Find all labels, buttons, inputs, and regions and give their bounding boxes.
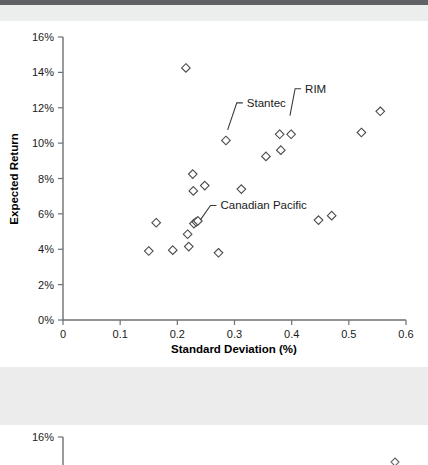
y-axis-title: Expected Return [8, 133, 20, 224]
data-point-marker [182, 64, 191, 73]
annotation-label: Stantec [247, 97, 286, 109]
scatter-chart-expected-return: 0%2%4%6%8%10%12%14%16% 00.10.20.30.40.50… [0, 21, 428, 367]
y-tick-label: 14% [32, 66, 54, 78]
secondary-y-tick-label: 16% [32, 431, 54, 443]
x-tick-label: 0 [60, 328, 66, 340]
data-point-marker [214, 248, 223, 257]
secondary-data-point-marker [391, 458, 399, 465]
data-point-marker [327, 211, 336, 220]
y-tick-label: 6% [38, 208, 54, 220]
document-divider-band [0, 367, 428, 425]
data-point-marker [277, 146, 286, 155]
x-tick-label: 0.4 [284, 328, 299, 340]
annotation-leader-line [290, 89, 301, 116]
data-point-marker [237, 185, 246, 194]
data-point-marker [188, 170, 197, 179]
annotation-leader-line [228, 103, 243, 130]
x-tick-label: 0.2 [170, 328, 185, 340]
y-tick-label: 8% [38, 173, 54, 185]
data-point-marker [144, 247, 153, 256]
data-point-marker [200, 181, 209, 190]
data-point-marker [183, 230, 192, 239]
scatter-chart-secondary-partial: 16% [0, 425, 428, 465]
data-point-marker [222, 136, 231, 145]
data-point-marker [287, 130, 296, 139]
y-tick-label: 12% [32, 102, 54, 114]
x-axis-title: Standard Deviation (%) [171, 343, 297, 355]
data-point-marker [275, 130, 284, 139]
data-point-marker [262, 152, 271, 161]
data-point-marker [314, 216, 323, 225]
data-point-marker [357, 128, 366, 137]
data-point-markers [144, 64, 384, 257]
point-annotations: StantecRIMCanadian Pacific [200, 83, 326, 220]
data-point-marker [189, 187, 198, 196]
x-axis-tick-marks [63, 320, 406, 325]
chart-axes [63, 37, 406, 320]
data-point-marker [168, 246, 177, 255]
x-tick-label: 0.1 [113, 328, 128, 340]
scatter-plot-svg: 0%2%4%6%8%10%12%14%16% 00.10.20.30.40.50… [0, 21, 428, 367]
annotation-leader-line [200, 205, 216, 220]
y-axis-tick-labels: 0%2%4%6%8%10%12%14%16% [32, 31, 54, 326]
x-tick-label: 0.5 [341, 328, 356, 340]
data-point-marker [376, 107, 385, 116]
data-point-marker [184, 242, 193, 251]
annotation-label: RIM [305, 83, 326, 95]
y-tick-label: 16% [32, 31, 54, 43]
x-axis-tick-labels: 00.10.20.30.40.50.6 [60, 328, 414, 340]
y-axis-tick-marks [58, 37, 63, 320]
y-tick-label: 2% [38, 279, 54, 291]
annotation-label: Canadian Pacific [220, 199, 307, 211]
scatter-plot-secondary-svg: 16% [0, 425, 428, 465]
y-tick-label: 4% [38, 243, 54, 255]
y-tick-label: 0% [38, 314, 54, 326]
x-tick-label: 0.3 [227, 328, 242, 340]
y-tick-label: 10% [32, 137, 54, 149]
x-tick-label: 0.6 [398, 328, 413, 340]
document-top-gray-band [0, 5, 428, 21]
data-point-marker [152, 218, 161, 227]
